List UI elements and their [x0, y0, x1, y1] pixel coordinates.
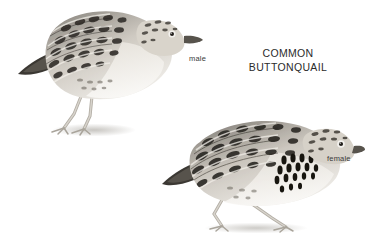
eye-female: [337, 140, 345, 148]
tail-male: [18, 54, 49, 75]
sex-label-male: male: [189, 54, 206, 63]
illustration-plate: COMMON BUTTONQUAIL male female: [0, 0, 376, 240]
eye-male: [168, 30, 175, 37]
species-title-line-1: COMMON: [232, 46, 344, 60]
species-title-line-2: BUTTONQUAIL: [232, 60, 344, 74]
bill-female: [352, 146, 365, 154]
tail-female: [162, 164, 194, 185]
bill-male: [184, 36, 203, 44]
species-title: COMMON BUTTONQUAIL: [232, 46, 344, 74]
bird-illustration-female: [160, 108, 365, 238]
sex-label-female: female: [327, 154, 351, 163]
